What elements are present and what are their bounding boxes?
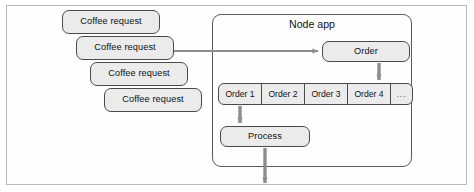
coffee-request-label: Coffee request — [94, 43, 156, 52]
process-label: Process — [248, 132, 282, 141]
process-box: Process — [220, 126, 310, 147]
order-queue: Order 1 Order 2 Order 3 Order 4 ... — [218, 83, 413, 105]
coffee-request-card-1: Coffee request — [62, 10, 160, 34]
queue-cell-label: ... — [396, 89, 406, 99]
queue-cell-label: Order 4 — [354, 89, 383, 99]
order-intake-label: Order — [354, 47, 378, 56]
queue-cell-overflow: ... — [391, 84, 412, 104]
queue-cell-label: Order 2 — [268, 89, 297, 99]
coffee-request-label: Coffee request — [122, 95, 184, 104]
coffee-request-card-4: Coffee request — [104, 88, 202, 112]
queue-cell-order-1: Order 1 — [219, 84, 262, 104]
queue-cell-order-2: Order 2 — [262, 84, 305, 104]
queue-cell-order-4: Order 4 — [348, 84, 391, 104]
coffee-request-label: Coffee request — [108, 69, 170, 78]
diagram-canvas: Coffee request Coffee request Coffee req… — [0, 0, 474, 192]
queue-cell-label: Order 3 — [311, 89, 340, 99]
coffee-request-card-2: Coffee request — [76, 36, 174, 60]
queue-cell-order-3: Order 3 — [305, 84, 348, 104]
node-app-title: Node app — [212, 18, 412, 30]
coffee-request-card-3: Coffee request — [90, 62, 188, 86]
order-intake-box: Order — [322, 41, 410, 62]
coffee-request-label: Coffee request — [80, 17, 142, 26]
queue-cell-label: Order 1 — [225, 89, 254, 99]
